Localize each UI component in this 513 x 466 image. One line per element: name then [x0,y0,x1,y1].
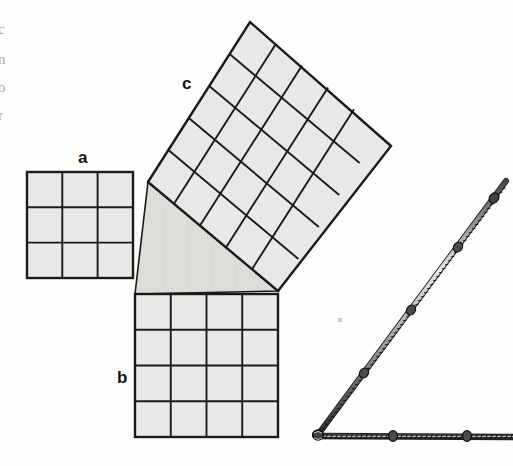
square-b [135,294,278,437]
square-a [27,172,133,278]
rope-corner-knot [313,430,324,440]
paper-speck [338,318,342,322]
knotted-rope [313,181,513,441]
rope-hypotenuse [317,181,506,436]
pythagorean-figure [0,0,513,466]
rope-base [317,431,513,442]
label-square-b: b [117,369,127,386]
label-square-c: c [182,75,191,92]
label-square-a: a [78,149,87,166]
